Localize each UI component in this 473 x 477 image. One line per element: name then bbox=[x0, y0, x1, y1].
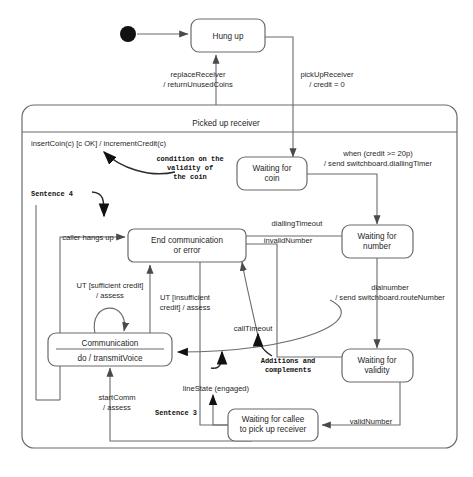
annotation-sentence-4: Sentence 4 bbox=[31, 190, 73, 198]
transition-label-dialling-timeout: diallingTimeout bbox=[272, 219, 324, 228]
composite-state-title: Picked up receiver bbox=[192, 119, 260, 128]
state-label-waiting-for-number-line1: Waiting for bbox=[358, 232, 397, 241]
annotation-coin-condition-line1: condition on the bbox=[156, 155, 223, 163]
transition-label-ut-sufficient-line2: / assess bbox=[96, 291, 124, 300]
state-label-waiting-for-coin-line2: coin bbox=[264, 174, 279, 183]
transition-label-caller-hangs-up: caller hangs up bbox=[62, 233, 114, 242]
transition-label-credit-20p-line2: / send switchboard.diallingTimer bbox=[324, 159, 433, 168]
state-label-hung-up: Hung up bbox=[213, 32, 244, 41]
state-activity-communication: do / transmitVoice bbox=[77, 354, 143, 363]
transition-label-pickup-receiver-line2: / credit = 0 bbox=[309, 80, 345, 89]
state-label-waiting-for-validity-line1: Waiting for bbox=[358, 356, 397, 365]
annotation-additions-line2: complements bbox=[265, 366, 311, 374]
state-label-communication: Communication bbox=[82, 339, 139, 348]
state-label-waiting-for-coin-line1: Waiting for bbox=[253, 164, 292, 173]
transition-label-dial-number-line1: dialnumber bbox=[371, 283, 409, 292]
annotation-coin-condition-line2: validity of bbox=[167, 164, 213, 172]
annotation-coin-condition-line3: the coin bbox=[173, 173, 207, 181]
state-label-end-communication-line2: or error bbox=[174, 246, 201, 255]
transition-label-pickup-receiver-line1: pickUpReceiver bbox=[300, 70, 354, 79]
transition-label-ut-insufficient-line1: UT [insufficient bbox=[160, 293, 211, 302]
state-label-waiting-for-number-line2: number bbox=[363, 242, 391, 251]
transition-label-line-state-engaged: lineState (engaged) bbox=[183, 384, 250, 393]
text-layer: Picked up receiver Hung up Waiting for c… bbox=[0, 0, 473, 477]
transition-label-invalid-number: invalidNumber bbox=[264, 236, 313, 245]
annotation-sentence-3: Sentence 3 bbox=[155, 409, 197, 417]
transition-label-credit-20p-line1: when (credit >= 20p) bbox=[342, 149, 413, 158]
transition-label-call-timeout: callTimeout bbox=[234, 324, 273, 333]
transition-label-start-comm-line1: startComm bbox=[98, 393, 135, 402]
transition-label-ut-insufficient-line2: credit] / assess bbox=[160, 303, 211, 312]
transition-label-replace-receiver-line1: replaceReceiver bbox=[171, 70, 226, 79]
state-label-waiting-for-validity-line2: validity bbox=[364, 366, 390, 375]
state-machine-diagram: Picked up receiver Hung up Waiting for c… bbox=[0, 0, 473, 477]
transition-label-replace-receiver-line2: / returnUnusedCoins bbox=[163, 80, 233, 89]
annotation-additions-line1: Additions and bbox=[261, 357, 316, 365]
state-label-end-communication-line1: End communication bbox=[151, 236, 223, 245]
state-label-waiting-for-callee-line1: Waiting for callee bbox=[242, 415, 305, 424]
transition-label-valid-number: validNumber bbox=[350, 417, 393, 426]
state-label-waiting-for-callee-line2: to pick up receiver bbox=[240, 425, 307, 434]
transition-label-start-comm-line2: / assess bbox=[103, 403, 131, 412]
transition-label-insert-coin: insertCoin(c) [c OK] / incrementCredit(c… bbox=[31, 139, 167, 148]
transition-label-dial-number-line2: / send switchboard.routeNumber bbox=[335, 293, 445, 302]
transition-label-ut-sufficient-line1: UT [sufficient credit] bbox=[77, 281, 144, 290]
